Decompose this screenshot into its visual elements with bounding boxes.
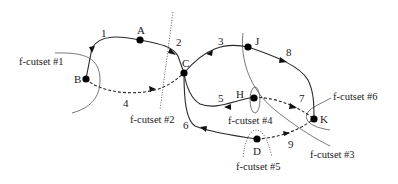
node-label-B: B bbox=[74, 73, 81, 85]
edge-label-5: 5 bbox=[218, 92, 224, 104]
node-J bbox=[244, 43, 251, 50]
node-D bbox=[253, 135, 260, 142]
edge-label-2: 2 bbox=[176, 36, 182, 48]
edge-4 bbox=[86, 73, 184, 93]
cutset-label-2: f-cutset #2 bbox=[130, 114, 175, 125]
cutset-diagram: A B C D H J K 1 2 3 4 5 6 7 8 9 f-cutset… bbox=[0, 0, 398, 184]
edge-1-arrow bbox=[89, 46, 95, 53]
cutset-label-6: f-cutset #6 bbox=[333, 91, 378, 102]
edge-7-arrow bbox=[289, 103, 297, 109]
node-label-D: D bbox=[253, 145, 261, 157]
node-label-H: H bbox=[236, 88, 244, 100]
node-C bbox=[180, 69, 187, 76]
edge-9-arrow bbox=[283, 131, 290, 136]
node-label-C: C bbox=[182, 57, 189, 69]
edge-label-1: 1 bbox=[101, 27, 107, 39]
edge-6 bbox=[184, 73, 257, 139]
edge-1 bbox=[86, 37, 140, 79]
cutset-label-3: f-cutset #3 bbox=[310, 149, 355, 160]
edge-label-9: 9 bbox=[288, 138, 294, 150]
edge-label-4: 4 bbox=[123, 97, 129, 109]
cutset-label-5: f-cutset #5 bbox=[236, 161, 281, 172]
cutset-label-1: f-cutset #1 bbox=[19, 56, 64, 67]
edge-label-8: 8 bbox=[286, 46, 292, 58]
node-label-J: J bbox=[255, 35, 260, 47]
node-K bbox=[310, 115, 317, 122]
node-label-A: A bbox=[137, 24, 145, 36]
edge-6-arrow bbox=[200, 126, 207, 132]
edge-label-3: 3 bbox=[218, 35, 224, 47]
node-A bbox=[136, 36, 143, 43]
edge-5-arrow bbox=[224, 104, 231, 110]
node-H bbox=[250, 94, 257, 101]
edge-label-7: 7 bbox=[299, 92, 305, 104]
edge-label-6: 6 bbox=[183, 119, 189, 131]
cutset-label-4: f-cutset #4 bbox=[228, 115, 273, 126]
node-B bbox=[82, 75, 89, 82]
edge-3 bbox=[184, 45, 248, 73]
edge-4-arrow bbox=[149, 86, 156, 92]
cutset-2-line bbox=[160, 12, 173, 110]
node-label-K: K bbox=[320, 113, 328, 125]
